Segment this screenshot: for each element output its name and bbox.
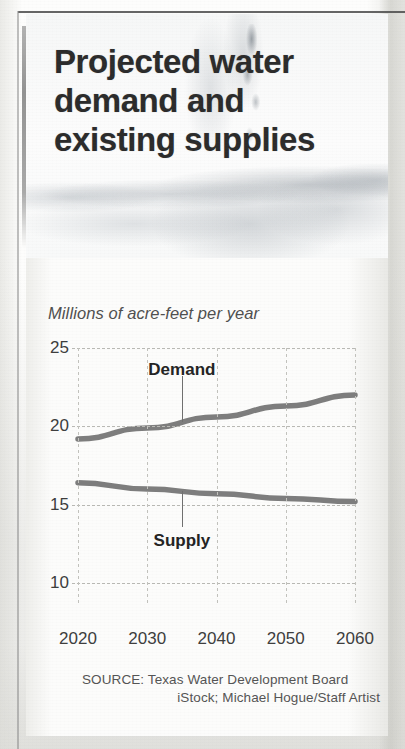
leader-line-supply <box>182 491 183 526</box>
gridline-horizontal <box>72 583 355 584</box>
series-label-supply: Supply <box>154 531 211 551</box>
x-axis-tick-label: 2050 <box>267 629 305 649</box>
left-border-rule <box>17 11 19 749</box>
source-line-1: SOURCE: Texas Water Development Board <box>82 671 382 689</box>
chart-subtitle: Millions of acre-feet per year <box>48 304 259 323</box>
gridline-vertical <box>147 348 148 605</box>
y-axis-tick-label: 15 <box>50 495 69 515</box>
x-axis-tick-label: 2040 <box>198 629 236 649</box>
leader-line-demand <box>182 376 183 422</box>
x-axis-tick-label: 2030 <box>128 629 166 649</box>
gridline-horizontal <box>72 426 355 427</box>
gridline-vertical <box>78 348 79 605</box>
chart-panel: Millions of acre-feet per year 252015102… <box>26 258 388 736</box>
gridline-vertical <box>355 348 356 605</box>
newspaper-clipping: Projected water demand and existing supp… <box>0 0 405 749</box>
y-axis-tick-label: 20 <box>50 416 69 436</box>
gridline-vertical <box>217 348 218 605</box>
top-border-rule <box>18 11 405 13</box>
gridline-vertical <box>286 348 287 605</box>
source-credit: SOURCE: Texas Water Development Board iS… <box>82 671 382 707</box>
page-title: Projected water demand and existing supp… <box>54 42 372 159</box>
y-axis-tick-label: 10 <box>50 573 69 593</box>
y-axis-tick-label: 25 <box>50 338 69 358</box>
source-line-2: iStock; Michael Hogue/Staff Artist <box>82 689 382 707</box>
x-axis-tick-label: 2060 <box>336 629 374 649</box>
gridline-horizontal <box>72 348 355 349</box>
plot-area: 2520151020202030204020502060DemandSupply <box>78 348 355 605</box>
gridline-horizontal <box>72 505 355 506</box>
water-surface-streak <box>26 164 388 216</box>
x-axis-tick-label: 2020 <box>59 629 97 649</box>
header-photo-panel: Projected water demand and existing supp… <box>26 14 388 258</box>
